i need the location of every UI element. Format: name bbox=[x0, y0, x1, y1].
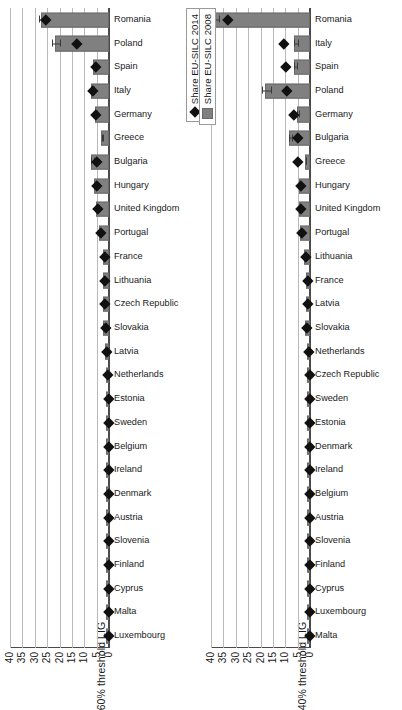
category-label-text: France bbox=[114, 252, 143, 261]
category-column[interactable] bbox=[10, 340, 109, 364]
y-axis-tick-label: 15 bbox=[268, 652, 278, 663]
category-label: France bbox=[312, 269, 402, 293]
category-column[interactable] bbox=[10, 601, 109, 625]
category-label: Finland bbox=[312, 553, 402, 577]
category-label-text: Lithuania bbox=[114, 276, 151, 285]
category-label-text: Greece bbox=[114, 134, 144, 143]
category-column[interactable] bbox=[211, 127, 310, 151]
diamond-marker[interactable] bbox=[292, 157, 303, 168]
category-label-text: Denmark bbox=[114, 489, 151, 498]
category-column[interactable] bbox=[211, 482, 310, 506]
category-column[interactable] bbox=[10, 198, 109, 222]
category-column[interactable] bbox=[10, 435, 109, 459]
category-label: Sweden bbox=[312, 387, 402, 411]
diamond-marker[interactable] bbox=[278, 38, 289, 49]
category-column[interactable] bbox=[211, 577, 310, 601]
category-column[interactable] bbox=[211, 601, 310, 625]
category-label: Latvia bbox=[111, 340, 201, 364]
category-label: Slovakia bbox=[312, 316, 402, 340]
category-label: Czech Republic bbox=[312, 364, 402, 388]
category-column[interactable] bbox=[211, 269, 310, 293]
category-column[interactable] bbox=[10, 245, 109, 269]
category-column[interactable] bbox=[211, 411, 310, 435]
category-column[interactable] bbox=[211, 364, 310, 388]
series-layer-bottom bbox=[211, 8, 310, 648]
legend-2008: Share EU-SILC 2008 bbox=[199, 8, 216, 125]
category-label-text: Latvia bbox=[315, 300, 340, 309]
category-column[interactable] bbox=[10, 364, 109, 388]
error-bar bbox=[52, 43, 61, 44]
category-column[interactable] bbox=[211, 506, 310, 530]
diamond-marker[interactable] bbox=[280, 62, 291, 73]
category-column[interactable] bbox=[211, 458, 310, 482]
category-label: Sweden bbox=[111, 411, 201, 435]
category-label-text: Lithuania bbox=[315, 252, 352, 261]
category-label: Slovenia bbox=[111, 529, 201, 553]
category-column[interactable] bbox=[211, 8, 310, 32]
category-column[interactable] bbox=[10, 221, 109, 245]
category-column[interactable] bbox=[10, 8, 109, 32]
category-column[interactable] bbox=[10, 506, 109, 530]
category-label: Lithuania bbox=[312, 245, 402, 269]
category-column[interactable] bbox=[211, 221, 310, 245]
category-column[interactable] bbox=[211, 150, 310, 174]
category-label-text: Finland bbox=[315, 560, 345, 569]
category-column[interactable] bbox=[10, 529, 109, 553]
category-column[interactable] bbox=[10, 150, 109, 174]
category-column[interactable] bbox=[211, 624, 310, 648]
category-column[interactable] bbox=[211, 340, 310, 364]
category-column[interactable] bbox=[10, 292, 109, 316]
y-axis-tick-label: 10 bbox=[280, 652, 290, 663]
category-label-text: Poland bbox=[315, 86, 344, 95]
category-label-text: France bbox=[315, 276, 344, 285]
category-column[interactable] bbox=[10, 577, 109, 601]
category-label-text: Netherlands bbox=[114, 371, 164, 380]
category-column[interactable] bbox=[10, 387, 109, 411]
category-label-text: Czech Republic bbox=[315, 371, 379, 380]
category-label: Belgium bbox=[111, 435, 201, 459]
category-column[interactable] bbox=[10, 316, 109, 340]
y-axis-tick-label: 30 bbox=[30, 652, 40, 663]
category-column[interactable] bbox=[211, 553, 310, 577]
category-column[interactable] bbox=[10, 482, 109, 506]
category-column[interactable] bbox=[211, 292, 310, 316]
category-label: Austria bbox=[111, 506, 201, 530]
category-column[interactable] bbox=[10, 127, 109, 151]
category-label: Poland bbox=[312, 79, 402, 103]
category-column[interactable] bbox=[211, 103, 310, 127]
category-column[interactable] bbox=[10, 174, 109, 198]
series-layer-top bbox=[10, 8, 109, 648]
category-column[interactable] bbox=[211, 387, 310, 411]
category-column[interactable] bbox=[211, 435, 310, 459]
category-column[interactable] bbox=[211, 55, 310, 79]
category-label: Greece bbox=[111, 127, 201, 151]
category-label: Lithuania bbox=[111, 269, 201, 293]
category-column[interactable] bbox=[10, 103, 109, 127]
category-column[interactable] bbox=[10, 411, 109, 435]
category-column[interactable] bbox=[10, 624, 109, 648]
category-column[interactable] bbox=[211, 245, 310, 269]
category-column[interactable] bbox=[211, 79, 310, 103]
category-column[interactable] bbox=[10, 269, 109, 293]
category-column[interactable] bbox=[211, 32, 310, 56]
category-label-text: Belgium bbox=[315, 489, 348, 498]
category-column[interactable] bbox=[10, 55, 109, 79]
category-label-text: United Kingdom bbox=[114, 205, 179, 214]
category-column[interactable] bbox=[211, 174, 310, 198]
category-column[interactable] bbox=[10, 79, 109, 103]
category-column[interactable] bbox=[211, 529, 310, 553]
category-label-text: Austria bbox=[114, 513, 143, 522]
category-column[interactable] bbox=[10, 32, 109, 56]
bar[interactable] bbox=[41, 12, 109, 27]
category-column[interactable] bbox=[10, 553, 109, 577]
category-label: Estonia bbox=[111, 387, 201, 411]
category-label: United Kingdom bbox=[312, 198, 402, 222]
category-column[interactable] bbox=[211, 316, 310, 340]
category-label-text: Spain bbox=[114, 63, 138, 72]
category-label: Spain bbox=[312, 55, 402, 79]
category-column[interactable] bbox=[10, 458, 109, 482]
category-column[interactable] bbox=[211, 198, 310, 222]
category-label: United Kingdom bbox=[111, 198, 201, 222]
panel-60-threshold: 60% threshold LIG 0510152025303540 Luxem… bbox=[0, 0, 201, 678]
category-label-text: Finland bbox=[114, 560, 144, 569]
